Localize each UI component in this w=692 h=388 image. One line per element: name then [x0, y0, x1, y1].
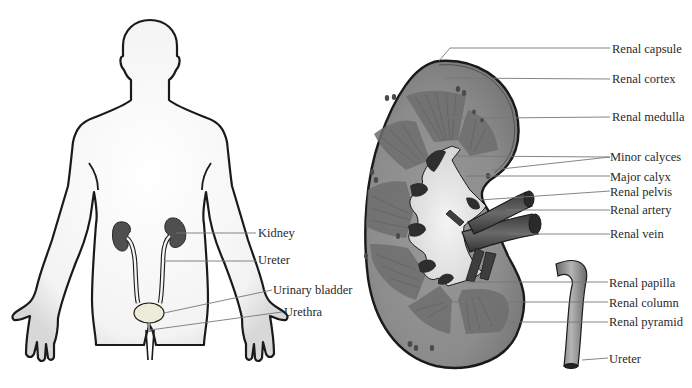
- label-renal-pelvis: Renal pelvis: [610, 185, 672, 199]
- label-urethra: Urethra: [284, 305, 322, 319]
- label-renal-pyramid: Renal pyramid: [609, 315, 683, 329]
- body-diagram-panel: Kidney Ureter Urinary bladder Urethra: [0, 0, 346, 388]
- body-outline-illustration: [0, 0, 346, 388]
- label-minor-calyces: Minor calyces: [610, 150, 681, 164]
- kidney-left: [112, 222, 130, 251]
- label-ureter: Ureter: [258, 253, 290, 267]
- label-renal-capsule: Renal capsule: [612, 42, 682, 56]
- label-renal-column: Renal column: [609, 296, 679, 310]
- label-renal-cortex: Renal cortex: [612, 72, 676, 86]
- label-urinary-bladder: Urinary bladder: [273, 283, 352, 297]
- label-ureter-kidney: Ureter: [609, 352, 641, 366]
- label-renal-artery: Renal artery: [610, 203, 671, 217]
- ureter-tube: [556, 261, 587, 369]
- kidney-cross-section-panel: Renal capsule Renal cortex Renal medulla…: [346, 0, 692, 388]
- label-renal-medulla: Renal medulla: [612, 110, 685, 124]
- urinary-bladder: [134, 303, 164, 323]
- label-renal-papilla: Renal papilla: [609, 276, 675, 290]
- label-major-calyx: Major calyx: [610, 170, 671, 184]
- label-renal-vein: Renal vein: [610, 227, 664, 241]
- label-kidney: Kidney: [258, 226, 295, 240]
